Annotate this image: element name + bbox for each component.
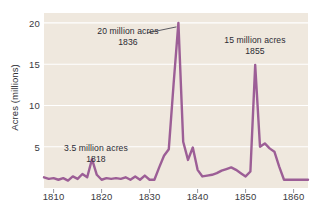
annotation-1818-line2: 1818 — [46, 154, 146, 165]
y-axis-tick-label: 15 — [29, 59, 40, 70]
annotation-1818: 3.5 million acres 1818 — [46, 143, 146, 165]
x-axis-tick-label: 1860 — [283, 191, 305, 202]
annotation-1836: 20 million acres 1836 — [78, 26, 178, 48]
chart-figure: 5101520 181018201830184018501860 Acres (… — [0, 0, 310, 218]
y-axis-tick-label: 5 — [35, 141, 40, 152]
x-axis-ticks — [54, 189, 294, 193]
annotation-1855-line2: 1855 — [205, 46, 305, 57]
x-axis-tick-label: 1820 — [91, 191, 113, 202]
y-axis-tick-labels: 5101520 — [0, 0, 40, 218]
x-axis-tick-label: 1850 — [235, 191, 257, 202]
annotation-1855-line1: 15 million acres — [205, 35, 305, 46]
x-axis-tick-label: 1840 — [187, 191, 209, 202]
x-axis-tick-label: 1810 — [43, 191, 65, 202]
annotation-1818-line1: 3.5 million acres — [46, 143, 146, 154]
y-axis-tick-label: 10 — [29, 100, 40, 111]
annotation-1836-line2: 1836 — [78, 37, 178, 48]
x-axis-tick-label: 1830 — [139, 191, 161, 202]
annotation-1836-line1: 20 million acres — [78, 26, 178, 37]
y-axis-title: Acres (millions) — [9, 38, 20, 158]
annotation-1855: 15 million acres 1855 — [205, 35, 305, 57]
y-axis-tick-label: 20 — [29, 17, 40, 28]
